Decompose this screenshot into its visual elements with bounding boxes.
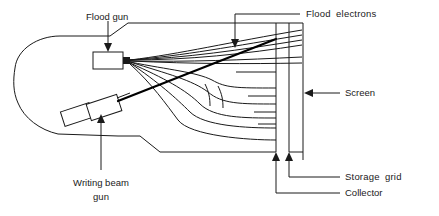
label-screen: Screen <box>345 87 375 98</box>
label-writing-beam-gun-line1: Writing beam <box>73 177 129 188</box>
tube-envelope-bottom <box>58 134 276 152</box>
collector-leader <box>272 152 340 193</box>
writing-beam-ray <box>118 39 276 101</box>
label-writing-beam-gun-line2: gun <box>93 191 109 202</box>
writing-beam-gun-body <box>60 93 130 126</box>
label-storage-grid: Storage grid <box>345 171 402 182</box>
diagram-canvas: Flood gun Flood electrons Screen Storage… <box>0 0 439 216</box>
label-flood-gun: Flood gun <box>86 11 128 22</box>
screen-leader <box>304 89 340 97</box>
tube-envelope-top <box>93 23 303 36</box>
flood-gun-tip <box>123 57 130 64</box>
writing-beam-gun-leader <box>97 114 105 170</box>
dvst-diagram: Flood gun Flood electrons Screen Storage… <box>0 0 439 216</box>
label-flood-electrons: Flood electrons <box>306 8 377 19</box>
storage-grid-leader <box>285 152 340 177</box>
flood-gun-body <box>93 52 123 69</box>
label-collector: Collector <box>345 187 383 198</box>
